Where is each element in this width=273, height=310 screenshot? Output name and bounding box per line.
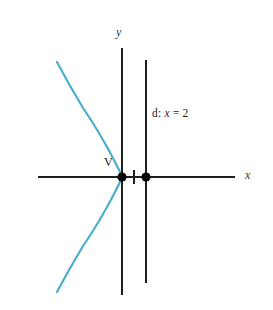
- y-axis-label: y: [116, 26, 121, 38]
- vertex-label: V: [104, 156, 113, 168]
- directrix-label-equation: = 2: [170, 107, 189, 119]
- focus-point: [141, 172, 150, 181]
- figure-canvas: [0, 0, 273, 310]
- directrix-label-prefix: d:: [152, 107, 164, 119]
- directrix-label: d: x = 2: [152, 108, 189, 120]
- parabola-figure: y x V d: x = 2: [0, 0, 273, 310]
- vertex-point: [117, 172, 126, 181]
- x-axis-label: x: [245, 169, 250, 181]
